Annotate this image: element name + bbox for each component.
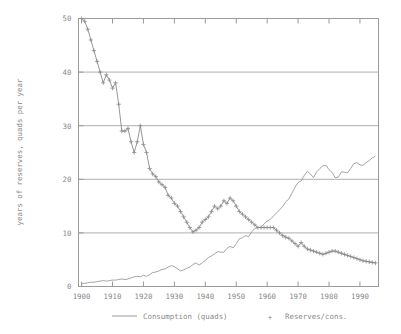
x-tick-label-1940: 1940 xyxy=(196,292,214,301)
x-tick-label-1900: 1900 xyxy=(73,292,91,301)
y-tick-label-50: 50 xyxy=(63,14,72,23)
x-tick-label-1920: 1920 xyxy=(135,292,153,301)
legend-plus-swatch-icon: + xyxy=(268,313,273,322)
x-tick-label-1990: 1990 xyxy=(351,292,369,301)
x-tick-label-1980: 1980 xyxy=(320,292,338,301)
y-tick-label-0: 0 xyxy=(67,282,71,291)
x-tick-label-1960: 1960 xyxy=(258,292,276,301)
x-tick-label-1930: 1930 xyxy=(165,292,183,301)
y-tick-label-20: 20 xyxy=(63,175,72,184)
x-tick-label-1950: 1950 xyxy=(227,292,245,301)
y-tick-label-10: 10 xyxy=(63,229,72,238)
legend-label-consumption: Consumption (quads) xyxy=(143,312,228,321)
x-tick-label-1970: 1970 xyxy=(289,292,307,301)
chart-container: 01020304050 1900191019201930194019501960… xyxy=(0,0,401,334)
y-axis-title: years of reserves, quads per year xyxy=(15,78,24,225)
y-tick-label-40: 40 xyxy=(63,68,72,77)
chart-background xyxy=(0,0,401,334)
legend-label-reserves: Reserves/cons. xyxy=(285,312,347,321)
y-tick-label-30: 30 xyxy=(63,122,72,131)
x-tick-label-1910: 1910 xyxy=(104,292,122,301)
energy-line-chart: 01020304050 1900191019201930194019501960… xyxy=(0,0,401,334)
